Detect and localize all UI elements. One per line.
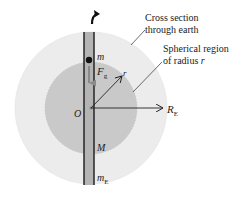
mass-particle [86, 57, 92, 63]
label-force-subscript: g [104, 72, 108, 80]
label-origin: O [74, 108, 81, 119]
label-cross-section-2: through earth [145, 24, 199, 35]
label-radius-r: r [123, 68, 127, 78]
label-spherical-var: r [201, 55, 205, 66]
label-mass-m: m [97, 51, 104, 62]
label-spherical-2: of radius r [163, 55, 205, 66]
label-spherical-1: Spherical region [163, 43, 229, 54]
drop-arrow-head-icon [94, 10, 100, 17]
label-inner-mass: M [96, 142, 106, 153]
cross-section-leader [131, 30, 145, 45]
label-earth-mass-subscript: E [104, 178, 108, 186]
label-earth-radius-subscript: E [174, 110, 178, 118]
label-earth-radius: RE [166, 103, 178, 118]
earth-tunnel-diagram: Cross section through earth Spherical re… [0, 0, 244, 198]
label-cross-section-1: Cross section [145, 12, 199, 23]
